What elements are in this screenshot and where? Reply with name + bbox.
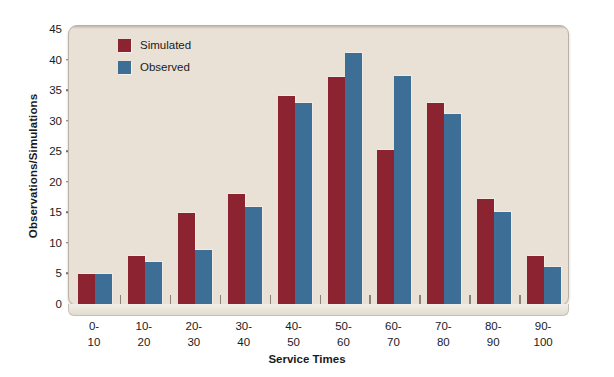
x-tick-mark-1 — [120, 295, 122, 304]
x-tick-mark-2 — [170, 295, 172, 304]
bar-simulated-20-30 — [178, 213, 195, 305]
bar-observed-10-20 — [145, 262, 162, 305]
y-tick-label-5: 5 — [30, 267, 62, 279]
bar-group — [377, 26, 411, 305]
y-tick-label-0: 0 — [30, 298, 62, 310]
y-tick-label-35: 35 — [30, 84, 62, 96]
legend-swatch-simulated — [118, 39, 131, 52]
bar-observed-80-90 — [494, 212, 511, 305]
x-tick-mark-4 — [270, 295, 272, 304]
bar-observed-20-30 — [195, 250, 212, 305]
bar-simulated-60-70 — [377, 150, 394, 305]
bar-observed-40-50 — [295, 103, 312, 305]
bar-observed-30-40 — [245, 207, 262, 305]
bar-observed-50-60 — [345, 53, 362, 305]
y-tick-label-20: 20 — [30, 176, 62, 188]
bar-observed-90-100 — [544, 267, 561, 305]
bar-simulated-40-50 — [278, 96, 295, 305]
bar-group — [427, 26, 461, 305]
legend-swatch-observed — [118, 61, 131, 74]
bar-observed-70-80 — [444, 114, 461, 305]
x-tick-label-90-100: 90-100 — [513, 318, 573, 350]
y-tick-label-10: 10 — [30, 237, 62, 249]
x-tick-mark-7 — [419, 295, 421, 304]
bar-simulated-70-80 — [427, 103, 444, 305]
x-axis-title: Service Times — [0, 353, 614, 365]
y-tick-label-25: 25 — [30, 145, 62, 157]
x-tick-mark-3 — [220, 295, 222, 304]
legend-label-observed: Observed — [140, 61, 190, 73]
bar-group — [477, 26, 511, 305]
legend-item-simulated: Simulated — [118, 34, 191, 56]
bar-group — [228, 26, 262, 305]
bar-group — [278, 26, 312, 305]
bar-group — [328, 26, 362, 305]
x-axis-baseline — [68, 304, 569, 316]
bar-group — [527, 26, 561, 305]
bar-simulated-50-60 — [328, 77, 345, 305]
bar-simulated-0-10 — [78, 274, 95, 305]
bar-simulated-30-40 — [228, 194, 245, 305]
x-tick-mark-9 — [519, 295, 521, 304]
bar-simulated-10-20 — [128, 256, 145, 305]
y-axis-tick-labels: 051015202530354045 — [30, 0, 62, 377]
bar-simulated-90-100 — [527, 256, 544, 306]
bar-group — [78, 26, 112, 305]
y-tick-label-30: 30 — [30, 115, 62, 127]
bar-observed-0-10 — [95, 274, 112, 305]
bar-chart: Observations/Simulations 051015202530354… — [0, 0, 614, 377]
x-tick-mark-5 — [320, 295, 322, 304]
x-tick-mark-6 — [369, 295, 371, 304]
y-tick-label-40: 40 — [30, 54, 62, 66]
y-tick-label-45: 45 — [30, 23, 62, 35]
chart-legend: Simulated Observed — [118, 34, 191, 78]
y-tick-label-15: 15 — [30, 206, 62, 218]
plot-area: Simulated Observed — [68, 25, 569, 306]
legend-item-observed: Observed — [118, 56, 191, 78]
legend-label-simulated: Simulated — [140, 39, 191, 51]
bar-observed-60-70 — [394, 76, 411, 305]
bar-simulated-80-90 — [477, 199, 494, 305]
x-tick-mark-8 — [469, 295, 471, 304]
